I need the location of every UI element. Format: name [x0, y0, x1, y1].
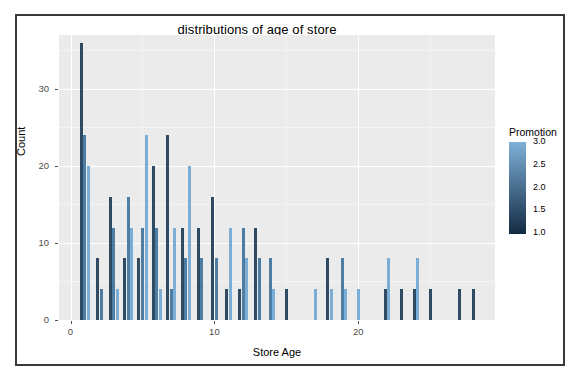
- gridline-major-vertical: [358, 35, 359, 320]
- gridline-minor-vertical: [286, 35, 287, 320]
- legend-colorbar-wrap: 3.02.52.01.51.0: [509, 142, 575, 234]
- y-tick-label: 30: [19, 83, 49, 94]
- bar: [116, 289, 119, 320]
- bar: [170, 289, 173, 320]
- bar: [400, 289, 403, 320]
- plot-panel: [59, 35, 495, 320]
- bar: [458, 289, 461, 320]
- bar: [173, 228, 176, 320]
- bar: [83, 135, 86, 320]
- bar: [413, 289, 416, 320]
- bar: [341, 258, 344, 320]
- bar: [152, 166, 155, 320]
- bar: [416, 258, 419, 320]
- bar: [238, 289, 241, 320]
- gridline-minor-vertical: [430, 35, 431, 320]
- bar: [197, 228, 200, 320]
- bar: [96, 258, 99, 320]
- legend-tick-label: 3.0: [533, 136, 546, 146]
- bar: [330, 289, 333, 320]
- bar: [242, 228, 245, 320]
- bar: [137, 258, 140, 320]
- bar: [130, 228, 133, 320]
- bar: [215, 258, 218, 320]
- bar: [181, 228, 184, 320]
- bar: [80, 43, 83, 320]
- bar: [326, 258, 329, 320]
- bar: [429, 289, 432, 320]
- y-tick-mark: [55, 320, 58, 321]
- bar: [211, 197, 214, 320]
- legend-tick-label: 1.5: [533, 204, 546, 214]
- bar: [159, 289, 162, 320]
- legend: Promotion 3.02.52.01.51.0: [509, 126, 581, 234]
- bar: [155, 228, 158, 320]
- legend-tick-label: 1.0: [533, 227, 546, 237]
- bar: [269, 258, 272, 320]
- y-tick-label: 0: [19, 314, 49, 325]
- legend-tick-label: 2.5: [533, 159, 546, 169]
- bar: [166, 135, 169, 320]
- bar: [314, 289, 317, 320]
- x-tick-label: 20: [343, 326, 373, 337]
- bar: [254, 228, 257, 320]
- x-tick-mark: [214, 321, 215, 324]
- bar: [184, 258, 187, 320]
- bar: [357, 289, 360, 320]
- y-tick-label: 10: [19, 237, 49, 248]
- bar: [472, 289, 475, 320]
- legend-tick-label: 2.0: [533, 182, 546, 192]
- x-tick-mark: [358, 321, 359, 324]
- bar: [141, 228, 144, 320]
- bar: [127, 197, 130, 320]
- bar: [123, 258, 126, 320]
- bar: [145, 135, 148, 320]
- bar: [387, 258, 390, 320]
- chart-frame: distributions of age of store 0102030010…: [15, 14, 565, 366]
- gridline-major-vertical: [71, 35, 72, 320]
- bar: [272, 289, 275, 320]
- x-axis-label: Store Age: [59, 346, 495, 358]
- bar: [245, 258, 248, 320]
- bar: [188, 166, 191, 320]
- bar: [258, 258, 261, 320]
- y-tick-mark: [55, 89, 58, 90]
- y-tick-label: 20: [19, 160, 49, 171]
- y-tick-mark: [55, 166, 58, 167]
- bar: [109, 197, 112, 320]
- bar: [87, 166, 90, 320]
- bar: [225, 289, 228, 320]
- bar: [200, 258, 203, 320]
- bar: [229, 228, 232, 320]
- x-tick-mark: [71, 321, 72, 324]
- bar: [384, 289, 387, 320]
- legend-colorbar[interactable]: [509, 142, 526, 234]
- bar: [100, 289, 103, 320]
- bar: [344, 289, 347, 320]
- x-tick-label: 10: [199, 326, 229, 337]
- bar: [112, 228, 115, 320]
- y-axis-label: Count: [15, 127, 27, 156]
- y-tick-mark: [55, 243, 58, 244]
- x-tick-label: 0: [56, 326, 86, 337]
- bar: [285, 289, 288, 320]
